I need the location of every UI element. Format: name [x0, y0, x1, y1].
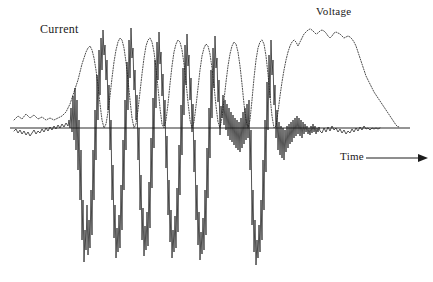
current-trace [14, 28, 380, 265]
voltage-series-label: Voltage [316, 5, 352, 17]
time-arrow-icon [366, 154, 428, 162]
time-axis-label: Time [340, 150, 364, 162]
current-series-label: Current [40, 22, 79, 37]
plot-canvas [0, 0, 433, 282]
waveform-figure: Current Voltage Time [0, 0, 433, 282]
voltage-trace [14, 29, 400, 128]
